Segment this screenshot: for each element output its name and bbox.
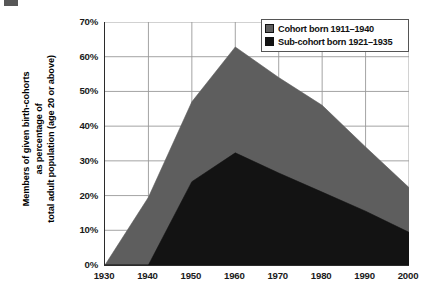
x-tick-label: 2000 (388, 270, 428, 281)
y-tick-label: 30% (64, 155, 98, 166)
legend-label-subcohort: Sub-cohort born 1921–1935 (278, 37, 392, 47)
y-tick-label: 70% (64, 16, 98, 27)
chart-legend: Cohort born 1911–1940 Sub-cohort born 19… (261, 19, 409, 52)
legend-swatch-black (265, 37, 274, 46)
x-tick-label: 1970 (258, 270, 298, 281)
y-tick-label: 40% (64, 120, 98, 131)
y-tick-label: 20% (64, 190, 98, 201)
y-axis-title: Members of given birth-cohorts as percen… (20, 4, 58, 274)
legend-item-cohort: Cohort born 1911–1940 (265, 22, 405, 35)
legend-item-subcohort: Sub-cohort born 1921–1935 (265, 35, 405, 48)
y-tick-label: 50% (64, 85, 98, 96)
y-tick-label: 60% (64, 51, 98, 62)
x-tick-label: 1960 (214, 270, 254, 281)
legend-swatch-gray (265, 24, 274, 33)
y-tick-label: 10% (64, 224, 98, 235)
x-tick-label: 1950 (171, 270, 211, 281)
legend-label-cohort: Cohort born 1911–1940 (278, 24, 374, 34)
y-tick-label: 0% (64, 259, 98, 270)
series-layer (105, 47, 409, 265)
x-tick-label: 1930 (84, 270, 124, 281)
chart-figure: Members of given birth-cohorts as percen… (0, 0, 440, 308)
x-tick-label: 1980 (301, 270, 341, 281)
x-tick-label: 1990 (345, 270, 385, 281)
area-chart-svg (105, 22, 409, 265)
scan-artifact-mark (4, 0, 18, 6)
plot-area (104, 22, 409, 266)
x-tick-label: 1940 (127, 270, 167, 281)
